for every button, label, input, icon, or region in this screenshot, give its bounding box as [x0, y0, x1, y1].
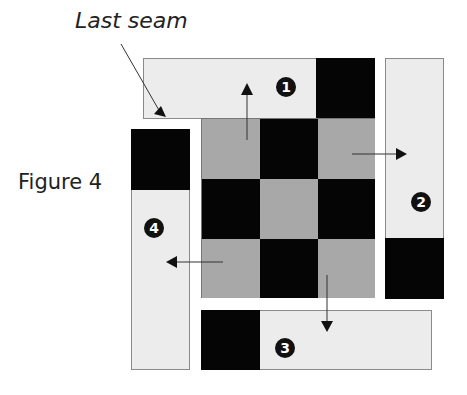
arrow-left-icon: [166, 256, 223, 268]
last-seam-pointer-arrow: [121, 44, 166, 117]
arrow-down-icon: [321, 275, 333, 332]
arrow-up-icon: [241, 83, 253, 140]
arrows-layer: [0, 0, 467, 395]
arrow-right-icon: [352, 148, 407, 160]
